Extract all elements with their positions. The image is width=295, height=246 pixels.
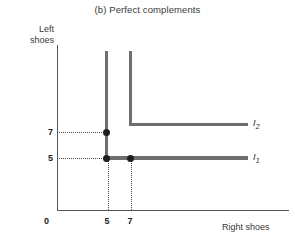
y-tick-label-5: 5 — [37, 153, 53, 163]
curve-label-i2-subscript: 2 — [256, 123, 260, 130]
y-tick-label-7: 7 — [37, 127, 53, 137]
curve-label-i2: I2 — [253, 117, 260, 130]
curve-i1-vertical-segment — [105, 51, 108, 158]
x-tick-label-5: 5 — [99, 216, 115, 226]
guide-line-y7 — [57, 132, 108, 133]
bundle-point-5-7 — [103, 129, 110, 136]
curve-i2-horizontal-segment — [129, 123, 249, 126]
y-axis — [57, 45, 58, 211]
curve-i2-vertical-segment — [129, 51, 132, 125]
y-axis-label-line1: Left — [14, 24, 54, 35]
guide-line-x7 — [131, 158, 132, 210]
y-axis-label: Left shoes — [14, 24, 54, 46]
figure-title: (b) Perfect complements — [0, 4, 295, 15]
curve-label-i1-subscript: 1 — [256, 157, 260, 164]
x-tick-label-7: 7 — [122, 216, 138, 226]
origin-label: 0 — [44, 216, 49, 226]
curve-label-i1: I1 — [253, 151, 260, 164]
y-axis-label-line2: shoes — [14, 35, 54, 46]
bundle-point-7-5 — [127, 155, 134, 162]
bundle-point-5-5-kink — [103, 155, 110, 162]
perfect-complements-figure: (b) Perfect complements Left shoes Right… — [0, 0, 295, 246]
x-axis-label: Right shoes — [222, 222, 292, 233]
x-axis — [57, 210, 289, 212]
guide-line-x5 — [108, 158, 109, 210]
